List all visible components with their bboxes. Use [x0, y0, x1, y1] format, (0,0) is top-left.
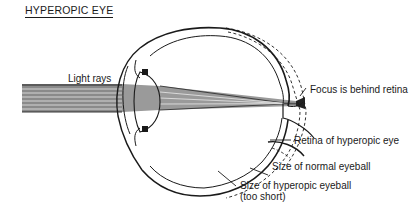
light-rays-label: Light rays	[68, 73, 111, 84]
hyperopic-eyeball-outline	[140, 28, 289, 196]
focus-leader	[300, 88, 306, 96]
normal-size-label: Size of normal eyeball	[272, 161, 370, 172]
eye-diagram	[0, 0, 414, 222]
focus-label: Focus is behind retina	[310, 84, 408, 95]
retina-line	[150, 36, 283, 188]
retina-label: Retina of hyperopic eye	[294, 135, 399, 146]
light-rays	[22, 84, 305, 112]
hyperopic-size-note: (too short)	[240, 191, 286, 202]
hyperopic-size-label: Size of hyperopic eyeball	[240, 180, 351, 191]
